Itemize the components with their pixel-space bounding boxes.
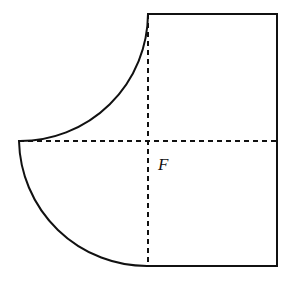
geometry-figure-svg: F	[0, 0, 294, 287]
figure-canvas: F	[0, 0, 294, 287]
point-label-f: F	[157, 155, 169, 174]
